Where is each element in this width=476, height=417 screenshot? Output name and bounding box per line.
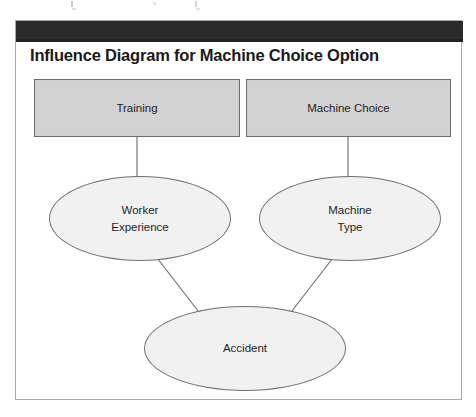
node-machine-choice-label: Machine Choice xyxy=(307,102,389,114)
node-worker-experience[interactable]: Worker Experience xyxy=(49,176,231,261)
node-accident[interactable]: Accident xyxy=(144,306,346,391)
scan-artifact xyxy=(71,1,73,7)
edge-worker-experience-to-accident xyxy=(154,254,202,316)
scan-artifact xyxy=(72,8,76,10)
node-accident-label: Accident xyxy=(223,340,267,357)
scan-artifact xyxy=(153,2,156,5)
influence-diagram: Training Machine Choice Worker Experienc… xyxy=(16,21,463,401)
node-machine-type[interactable]: Machine Type xyxy=(259,176,441,261)
node-training[interactable]: Training xyxy=(34,79,240,137)
scan-artifact xyxy=(195,1,197,7)
node-training-label: Training xyxy=(116,102,157,114)
scan-artifact xyxy=(196,8,200,10)
node-worker-experience-label-line-2: Experience xyxy=(111,219,169,236)
figure-page: Influence Diagram for Machine Choice Opt… xyxy=(0,0,476,417)
node-machine-type-label-line-2: Type xyxy=(338,219,363,236)
figure-frame: Influence Diagram for Machine Choice Opt… xyxy=(15,20,462,400)
edge-machine-type-to-accident xyxy=(288,254,336,316)
node-worker-experience-label-line-1: Worker xyxy=(122,202,159,219)
node-machine-type-label-line-1: Machine xyxy=(328,202,371,219)
node-machine-choice[interactable]: Machine Choice xyxy=(246,79,451,137)
